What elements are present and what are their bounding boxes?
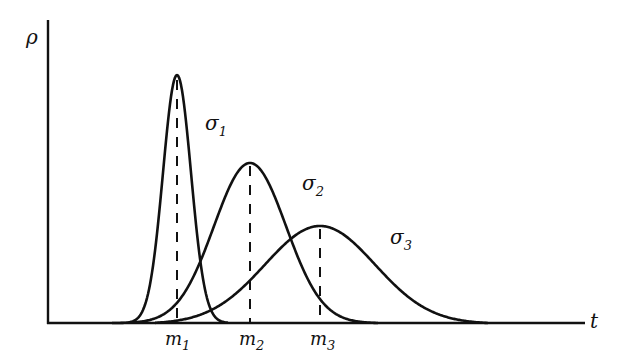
label-sigma3: σ3 <box>390 225 412 253</box>
tick-m2: m2 <box>239 328 264 353</box>
y-axis-label: ρ <box>25 25 38 49</box>
mean-lines <box>177 80 320 323</box>
tick-m3: m3 <box>310 328 335 353</box>
curve-sigma3 <box>155 226 488 323</box>
x-axis-label: t <box>590 309 599 333</box>
label-sigma1: σ1 <box>205 111 227 139</box>
curves <box>112 75 488 323</box>
distribution-chart: ρ t m1 m2 m3 σ1 σ2 σ3 <box>0 0 620 359</box>
curve-sigma2 <box>128 163 378 323</box>
label-sigma2: σ2 <box>302 171 324 199</box>
tick-m1: m1 <box>165 328 190 353</box>
